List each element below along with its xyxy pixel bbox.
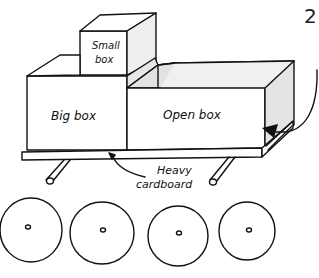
wheels	[0, 198, 275, 266]
open-box-label: Open box	[163, 109, 221, 121]
small-box-label-line1: Small	[92, 41, 120, 51]
big-box-label: Big box	[51, 110, 96, 122]
open-box	[127, 61, 294, 150]
step-number: 2	[304, 4, 317, 28]
heavy-cardboard-label-line1: Heavy	[157, 165, 192, 176]
heavy-cardboard-label-line2: cardboard	[136, 179, 192, 190]
box-wagon-diagram	[0, 0, 319, 278]
small-box-label-line2: box	[95, 55, 113, 65]
leader-line	[113, 157, 145, 177]
